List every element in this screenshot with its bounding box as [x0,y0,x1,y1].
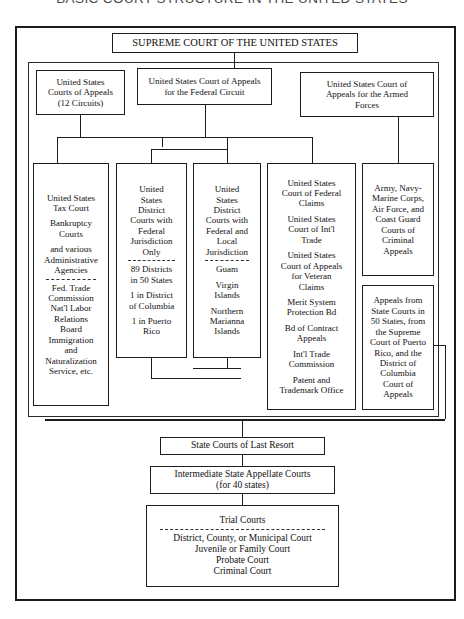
node-line: Fed. Trade [36,283,106,293]
node-line: Intermediate State Appellate Courts [153,469,332,480]
connector-cafc-bus [162,137,312,138]
node-line: Local [196,236,258,246]
node-line: Immigration [36,335,106,345]
node-line: Air Force, and [365,204,431,214]
connector-district-return-bus [151,378,241,379]
connector-bus-to-state-last-resort [242,419,243,437]
node-line: Naturalization [36,356,106,366]
node-line: Juvenile or Family Court [149,544,336,555]
node-line: Merit System [270,297,353,307]
node-state-courts-of-last-resort[interactable]: State Courts of Last Resort [160,437,325,455]
diagram-sheet: BASIC COURT STRUCTURE IN THE UNITED STAT… [0,0,464,619]
node-line: Courts with [196,215,258,225]
node-line: United States [270,214,353,224]
node-line: of Columbia [119,301,184,311]
node-line: for Veteran [270,271,353,281]
node-line: Federal [119,226,184,236]
node-district-courts-federal-and-local-jurisdiction[interactable]: United States District Courts with Feder… [193,163,261,358]
node-line: Northern [196,306,258,316]
node-line: Tax Court [36,203,106,213]
node-line: Trial Courts [149,515,336,526]
node-line: for the Federal Circuit [140,87,269,97]
node-line: United [196,184,258,194]
connector-federal-only-down [151,358,152,378]
connector-state-bus [45,419,445,421]
connector-federal-local-return [193,368,241,369]
node-line: Columbia [365,368,431,378]
node-line: the Supreme [365,327,431,337]
node-line: Criminal [365,235,431,245]
node-line: Forces [303,100,431,110]
node-line: United States [36,193,106,203]
node-line: Nat'l Labor [36,303,106,313]
node-line: Patent and [270,375,353,385]
node-tax-court-and-agencies[interactable]: United States Tax Court Bankruptcy Court… [33,163,109,406]
node-line: Criminal Court [149,566,336,577]
node-district-courts-federal-jurisdiction-only[interactable]: United States District Courts with Feder… [116,163,187,358]
node-line: Courts of Appeals [39,87,122,97]
node-line: Coast Guard [365,214,431,224]
section-divider [205,260,250,261]
node-line: District [196,205,258,215]
section-divider [160,529,325,530]
node-line: Court of Puerto [365,337,431,347]
node-line: District of [365,358,431,368]
connector-district-bus [151,149,227,150]
node-line: Board [36,324,106,334]
node-line: Bd of Contract [270,323,353,333]
node-trial-courts[interactable]: Trial Courts District, County, or Munici… [146,505,339,587]
node-line: Appeals for the Armed [303,89,431,99]
node-line: 1 in Puerto [119,316,184,326]
node-line: 89 Districts [119,264,184,274]
node-appeals-from-state-courts[interactable]: Appeals from State Courts in 50 States, … [362,285,434,410]
node-court-of-appeals-federal-circuit[interactable]: United States Court of Appeals for the F… [137,68,272,105]
node-line: Islands [196,326,258,336]
node-courts-of-appeals-12-circuits[interactable]: United States Courts of Appeals (12 Circ… [36,70,125,115]
node-line: United States Court of Appeals [140,76,269,86]
node-line: Court of [365,379,431,389]
node-line: Federal and [196,226,258,236]
node-intermediate-state-appellate-courts[interactable]: Intermediate State Appellate Courts (for… [150,466,335,494]
node-line: Rico [119,326,184,336]
connector-cafc-stem [205,105,206,137]
node-line: Claims [270,282,353,292]
node-line: Jurisdiction [119,236,184,246]
node-line: Army, Navy- [365,183,431,193]
node-line: Probate Court [149,555,336,566]
node-line: Court of Appeals [270,261,353,271]
node-line: Commission [36,293,106,303]
node-line: Agencies [36,265,106,275]
connector-ca12-stem [80,115,81,137]
node-line: and [36,345,106,355]
node-line: United States [270,250,353,260]
section-divider [46,279,96,280]
node-line: United States [39,77,122,87]
node-line: Marianna [196,316,258,326]
node-military-criminal-appeals-courts[interactable]: Army, Navy- Marine Corps, Air Force, and… [362,163,434,276]
node-line: States [196,195,258,205]
connector-to-federal-local [227,149,228,163]
node-line: (for 40 states) [153,480,332,491]
node-line: Protection Bd [270,307,353,317]
node-line: Appeals [270,333,353,343]
node-line: (12 Circuits) [39,98,122,108]
connector-caaf-to-military [398,117,399,163]
section-divider [128,260,175,261]
node-line: Courts with [119,215,184,225]
connector-ca12-to-districts [162,137,163,147]
connector-isac-to-trial [242,494,243,505]
node-line: Commission [270,359,353,369]
node-line: Guam [196,264,258,274]
node-line: Courts of [365,225,431,235]
node-line: Courts [36,229,106,239]
connector-ca12-to-tax [57,137,58,163]
connector-cafc-to-claims [312,137,313,163]
node-line: Trade [270,235,353,245]
connector-district-drop [227,137,228,149]
node-supreme-court[interactable]: SUPREME COURT OF THE UNITED STATES [112,33,358,53]
node-line: Relations [36,314,106,324]
node-federal-claims-and-specialized-tribunals[interactable]: United States Court of Federal Claims Un… [267,163,356,410]
node-line: Rico, and the [365,348,431,358]
node-court-of-appeals-armed-forces[interactable]: United States Court of Appeals for the A… [300,72,434,117]
node-line: in 50 States [119,275,184,285]
